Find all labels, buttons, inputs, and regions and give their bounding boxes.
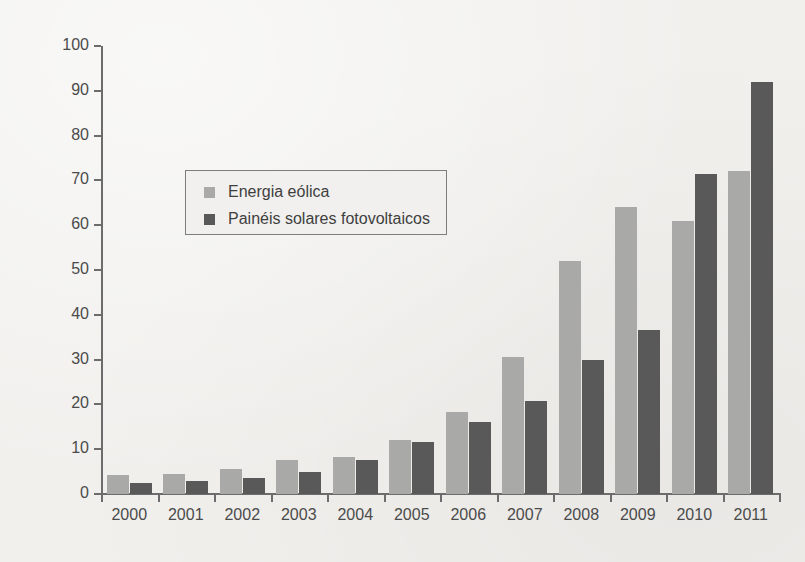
legend-label: Energia eólica [228,183,329,201]
bar [389,440,411,494]
legend-label: Painéis solares fotovoltaicos [228,210,430,228]
y-axis-tick-label: 0 [29,484,89,502]
x-axis-tick [271,493,273,502]
bar [276,460,298,494]
bar [243,478,265,494]
y-axis-tick-label: 70 [29,170,89,188]
x-axis-tick [440,493,442,502]
x-axis-tick [497,493,499,502]
y-axis-tick-label: 40 [29,305,89,323]
bar [751,82,773,494]
bar [186,481,208,494]
plot-area [101,46,779,494]
bar [615,207,637,494]
legend-swatch-icon [204,187,215,198]
bar [446,412,468,494]
y-axis-tick [94,314,101,316]
y-axis-tick-label: 50 [29,260,89,278]
x-axis-tick [723,493,725,502]
x-axis-tick [214,493,216,502]
y-axis-tick-label: 90 [29,81,89,99]
y-axis-tick-label: 10 [29,439,89,457]
legend-entry: Painéis solares fotovoltaicos [204,207,446,231]
bar [107,475,129,494]
bar [695,174,717,494]
x-axis-tick [779,493,781,502]
y-axis-tick [94,493,101,495]
bar [638,330,660,494]
bar [502,357,524,494]
bar [469,422,491,494]
y-axis-tick [94,45,101,47]
y-axis-tick [94,224,101,226]
y-axis-tick-label: 60 [29,215,89,233]
x-axis-tick [327,493,329,502]
y-axis-tick [94,135,101,137]
x-axis-tick [553,493,555,502]
bar [672,221,694,494]
y-axis-tick [94,448,101,450]
bar [130,483,152,494]
bar [559,261,581,494]
y-axis-tick-label: 20 [29,394,89,412]
y-axis-tick [94,269,101,271]
bar [582,360,604,494]
legend-entry: Energia eólica [204,180,446,204]
y-axis-tick [94,179,101,181]
bar-chart: $ bilhões 0102030405060708090100 2000200… [0,0,805,562]
bar [356,460,378,494]
y-axis-tick-label: 30 [29,350,89,368]
x-axis-tick [101,493,103,502]
x-axis-tick [610,493,612,502]
bar [525,401,547,494]
bar [163,474,185,494]
x-axis-tick-label: 2011 [716,506,786,524]
chart-legend: Energia eólicaPainéis solares fotovoltai… [185,170,447,235]
y-axis-tick-label: 100 [29,36,89,54]
bar [728,171,750,494]
legend-swatch-icon [204,214,215,225]
y-axis-tick [94,403,101,405]
bar [299,472,321,494]
x-axis-tick [666,493,668,502]
y-axis-tick-label: 80 [29,126,89,144]
x-axis-tick [158,493,160,502]
bar [412,442,434,494]
bar [220,469,242,494]
x-axis-tick [384,493,386,502]
y-axis-tick [94,90,101,92]
bar [333,457,355,494]
y-axis-tick [94,359,101,361]
